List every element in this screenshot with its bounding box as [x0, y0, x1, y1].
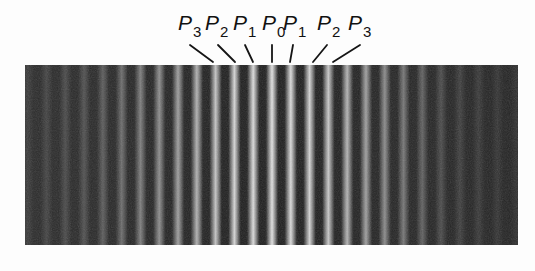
leader-line-p3-right [333, 45, 360, 62]
leader-line-p2-left [218, 45, 235, 62]
fringe-pattern-photo [25, 65, 518, 245]
fringe-pattern-graphic [25, 65, 518, 245]
leader-line-p1-left [245, 45, 253, 62]
leader-line-p1-right [290, 45, 293, 62]
leader-line-p3-left [190, 45, 213, 62]
interference-fringe-figure: P3 P2 P1 P0 P1 P2 P3 [0, 0, 535, 271]
leader-lines [0, 0, 535, 66]
leader-line-p2-right [313, 45, 327, 62]
